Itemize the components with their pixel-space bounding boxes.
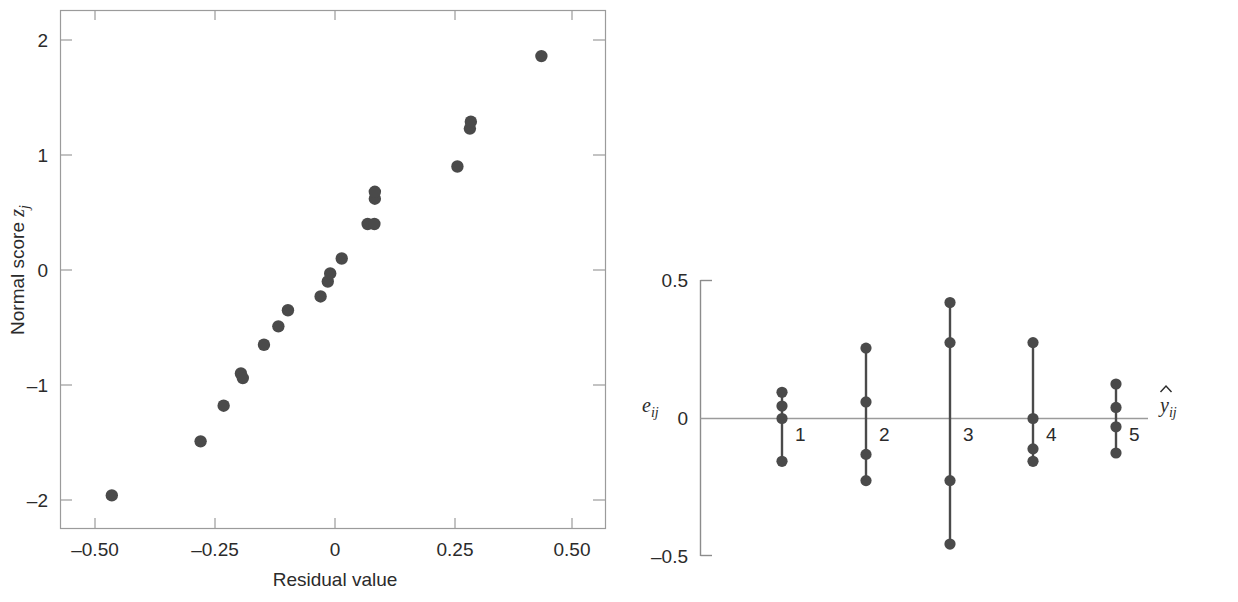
x-axis-title: yij [1158,386,1177,420]
residual-point [1027,456,1038,467]
residual-point [1027,413,1038,424]
residual-group: 1 [776,387,805,467]
scatter-points [106,50,548,502]
residual-point [776,413,787,424]
residual-point [860,396,871,407]
group-label: 2 [879,424,890,445]
scatter-point [282,304,294,316]
residual-point [776,400,787,411]
residual-group: 3 [944,297,973,550]
scatter-point [237,372,249,384]
scatter-point [217,400,229,412]
y-axis-title-text: Normal score [7,222,28,335]
y-tick-label: –1 [27,375,48,396]
scatter-point [258,339,270,351]
scatter-point [369,186,381,198]
y-tick-label: 2 [37,30,48,51]
x-tick-label: 0 [330,539,341,560]
group-label: 1 [795,424,806,445]
residual-group: 4 [1027,337,1057,467]
y-axis-title: Normal score zj [6,205,32,335]
scatter-point [336,252,348,264]
scatter-point [194,435,206,447]
x-axis-title-symbol: y [1158,394,1169,417]
residual-point [860,449,871,460]
x-axis-title-subscript: ij [1169,405,1177,420]
x-axis-tick-labels: –0.50 –0.25 0 0.25 0.50 [71,539,590,560]
y-hat-circumflex-icon [1161,386,1172,392]
residual-point [860,343,871,354]
residual-point [1027,337,1038,348]
y-tick-label: 1 [37,145,48,166]
x-tick-label: –0.25 [191,539,239,560]
residual-point [776,456,787,467]
y-axis-title-subscript: ij [651,405,659,420]
residual-point [944,297,955,308]
scatter-point [465,115,477,127]
x-tick-label: –0.50 [71,539,119,560]
residual-point [1110,402,1121,413]
y-axis-tick-labels: 2 1 0 –1 –2 [27,30,48,511]
residual-point [944,337,955,348]
residual-group: 2 [860,343,889,487]
y-axis-title-symbol: e [642,394,651,416]
y-tick-label: 0 [677,408,688,429]
x-axis-title: Residual value [273,569,398,590]
svg-text:yij: yij [1158,394,1177,420]
residual-point [1110,378,1121,389]
x-tick-label: 0.25 [437,539,474,560]
scatter-point [314,290,326,302]
residual-point [776,387,787,398]
residual-point [1110,421,1121,432]
y-tick-label: 0.5 [662,270,688,291]
figure-container: –0.50 –0.25 0 0.25 0.50 2 1 0 –1 –2 Resi… [0,0,1238,602]
normal-probability-plot: –0.50 –0.25 0 0.25 0.50 2 1 0 –1 –2 Resi… [0,0,620,602]
residuals-vs-fitted-plot: 0.5 0 –0.5 eij yij 12345 [620,0,1238,602]
residual-point [1110,447,1121,458]
group-label: 5 [1129,424,1140,445]
residual-point [944,538,955,549]
residual-point [860,475,871,486]
svg-text:Normal score zj: Normal score zj [6,205,32,335]
y-tick-label: –2 [27,490,48,511]
scatter-point [106,489,118,501]
y-tick-label: –0.5 [651,546,688,567]
residual-point [1027,443,1038,454]
group-label: 3 [963,424,974,445]
x-tick-label: 0.50 [554,539,591,560]
residual-point [944,475,955,486]
scatter-point [324,267,336,279]
scatter-point [535,50,547,62]
group-label: 4 [1046,424,1057,445]
y-axis-title-symbol: z [6,209,28,218]
y-axis-title: eij [642,394,659,420]
y-tick-label: 0 [37,260,48,281]
scatter-point [368,218,380,230]
residual-groups: 12345 [776,297,1139,550]
scatter-point [451,160,463,172]
scatter-point [272,320,284,332]
